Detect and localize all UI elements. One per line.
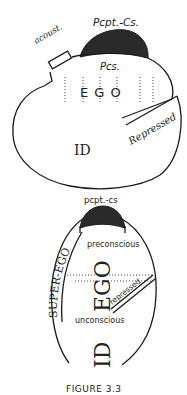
acoust-box xyxy=(48,51,71,69)
id-label: ID xyxy=(74,142,91,158)
preconscious-label: preconscious xyxy=(87,240,139,249)
super-ego-label: SUPER-EGO xyxy=(47,246,73,318)
repressed-label: Repressed xyxy=(126,111,178,148)
figure-caption: FIGURE 3.3 xyxy=(66,384,122,394)
freud-structural-model-diagram: Pcpt.-Cs. acoust. Pcs. E G O Repressed I… xyxy=(0,0,187,395)
figure-top: Pcpt.-Cs. acoust. Pcs. E G O Repressed I… xyxy=(13,16,181,189)
ego-label: E G O xyxy=(80,85,122,100)
id-label-bottom: ID xyxy=(90,342,115,368)
pcpt-cs-label-bottom: pcpt.-cs xyxy=(84,195,118,205)
super-ego-arc xyxy=(62,232,82,322)
pcs-label: Pcs. xyxy=(100,61,120,72)
unconscious-label: unconscious xyxy=(75,316,124,325)
pcpt-cs-cap-bottom xyxy=(80,206,125,228)
acoust-label: acoust. xyxy=(32,22,64,46)
figure-bottom: pcpt.-cs SUPER-EGO preconscious EGO repr… xyxy=(47,195,156,368)
pcpt-cs-label: Pcpt.-Cs. xyxy=(93,16,139,28)
